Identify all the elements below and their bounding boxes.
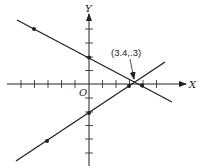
y-intercept-marker — [87, 111, 91, 115]
x-axis-label: X — [188, 79, 197, 90]
intersection-label: (3.4,.3) — [111, 47, 141, 58]
point-marker — [45, 139, 49, 143]
increasing-line — [16, 62, 165, 161]
x-intercept-marker — [127, 84, 131, 88]
graph-diagram: X Y O (3.4,.3) — [0, 0, 202, 168]
x-intercept-marker — [140, 84, 144, 88]
point-marker — [32, 27, 36, 31]
x-axis — [7, 80, 186, 88]
y-intercept-marker — [87, 56, 91, 60]
origin-label: O — [79, 87, 87, 98]
intersection-pointer-arrow — [130, 59, 134, 79]
decreasing-line — [17, 20, 172, 102]
y-axis-label: Y — [85, 3, 93, 14]
